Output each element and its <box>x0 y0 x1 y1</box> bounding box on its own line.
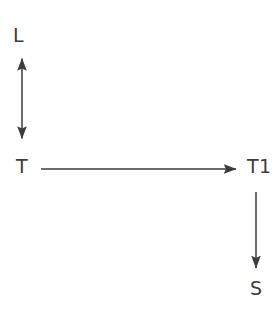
node-label-t1: T1 <box>247 157 272 176</box>
node-label-s: S <box>250 279 262 298</box>
node-label-t: T <box>16 157 28 176</box>
node-label-l: L <box>13 26 24 45</box>
diagram-canvas: L T T1 S <box>0 0 277 317</box>
diagram-edges <box>0 0 277 317</box>
